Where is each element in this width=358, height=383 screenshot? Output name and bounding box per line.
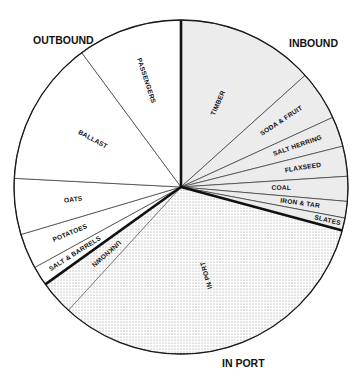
- in-port-label: IN PORT: [222, 357, 265, 369]
- outbound-label: OUTBOUND: [33, 34, 94, 46]
- slice-label: COAL: [271, 184, 291, 191]
- pie-chart: TIMBERSODA & FRUITSALT HERRINGFLAXSEEDCO…: [0, 0, 358, 383]
- inbound-label: INBOUND: [289, 37, 338, 49]
